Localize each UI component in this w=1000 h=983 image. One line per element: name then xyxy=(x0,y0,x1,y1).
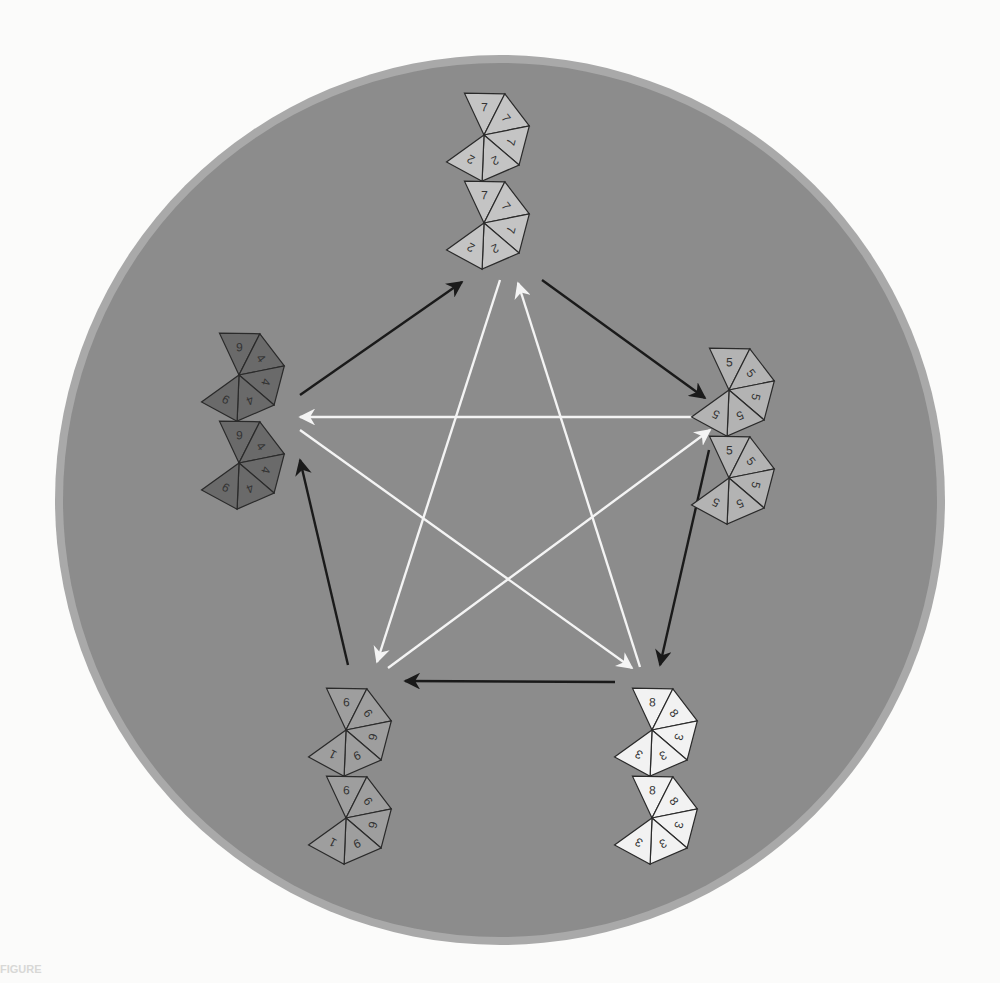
die-face-value: 9 xyxy=(236,428,243,442)
die-face-value: 7 xyxy=(481,100,488,114)
die-face-value: 6 xyxy=(343,783,350,797)
die-face-value: 5 xyxy=(726,355,733,369)
dice-cycle-diagram: 7772277722555555555588333883336669166691… xyxy=(0,0,1000,983)
figure-caption-label: FIGURE xyxy=(0,963,42,975)
die-face-value: 6 xyxy=(343,695,350,709)
arrow-bottom-right-to-bottom-left xyxy=(405,681,615,682)
die-face-value: 7 xyxy=(481,188,488,202)
die-face-value: 8 xyxy=(649,783,656,797)
die-face-value: 8 xyxy=(649,695,656,709)
die-face-value: 5 xyxy=(726,443,733,457)
die-face-value: 9 xyxy=(236,340,243,354)
